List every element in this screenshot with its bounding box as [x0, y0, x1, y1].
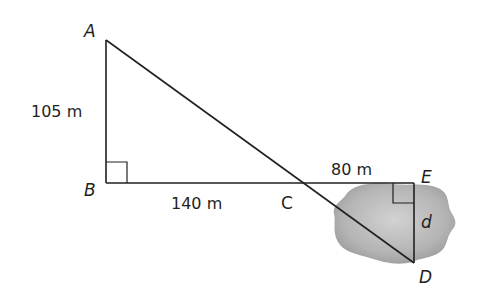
label-point-a: A	[83, 21, 96, 41]
label-point-c: C	[281, 193, 293, 213]
label-point-d: D	[419, 267, 432, 287]
label-point-b: B	[84, 180, 96, 200]
water-region	[334, 183, 456, 263]
right-angle-marker-b	[106, 162, 127, 183]
geometry-diagram: A B C E D 105 m 140 m 80 m d	[0, 0, 478, 300]
measurement-ab: 105 m	[31, 102, 82, 121]
measurement-de: d	[421, 212, 432, 232]
measurement-bc: 140 m	[171, 194, 222, 213]
measurement-ce: 80 m	[331, 160, 372, 179]
label-point-e: E	[421, 167, 432, 187]
segment-ad	[106, 40, 414, 263]
